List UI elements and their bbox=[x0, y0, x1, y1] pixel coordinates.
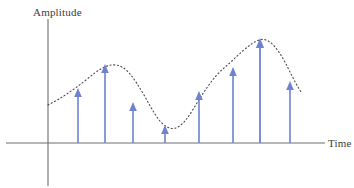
sample-arrow-1 bbox=[74, 88, 82, 143]
sample-arrow-2 bbox=[101, 64, 109, 143]
sample-arrow-6 bbox=[229, 67, 237, 143]
amplitude-axis-label: Amplitude bbox=[33, 6, 82, 18]
sample-arrow-3 bbox=[129, 102, 137, 143]
plot-canvas bbox=[0, 0, 354, 188]
continuous-signal-curve bbox=[48, 39, 302, 128]
sampling-diagram: Amplitude Time bbox=[0, 0, 354, 188]
sample-stems-group bbox=[74, 38, 294, 143]
sample-arrow-7 bbox=[256, 38, 264, 143]
sample-arrow-5 bbox=[195, 91, 203, 143]
sample-arrow-8 bbox=[286, 81, 294, 143]
time-axis-label: Time bbox=[328, 137, 352, 149]
